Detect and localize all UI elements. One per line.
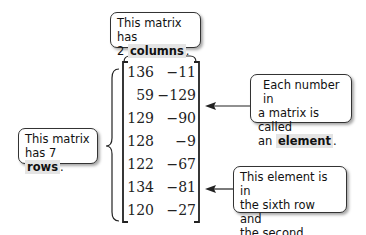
rows-term: rows [25,160,60,174]
matrix-row-3: 129−90 [123,110,199,132]
element-callout: Each number in a matrix is called an ele… [250,74,352,123]
columns-term: columns [128,44,186,58]
matrix-row-7: 120−27 [123,202,199,224]
rows-callout: This matrix has 7 rows. [18,128,98,164]
matrix-row-5: 122−67 [123,156,199,178]
matrix-row-4: 128−9 [123,133,199,155]
columns-callout: This matrix has 2 columns. [110,12,201,48]
row-brace [106,69,119,221]
position-callout: This element is in the sixth row and the… [233,166,347,213]
matrix: 136−11 59−129 129−90 128−9 122−67 134−81… [123,62,199,222]
matrix-row-6: 134−81 [123,179,199,201]
element-term: element [276,134,333,148]
matrix-row-2: 59−129 [123,87,199,109]
matrix-row-1: 136−11 [123,64,199,86]
